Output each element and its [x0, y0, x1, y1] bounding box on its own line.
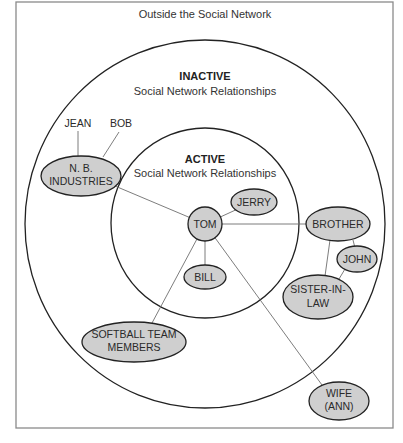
node-label-line: LAW — [307, 297, 329, 309]
node-label-line: (ANN) — [324, 400, 353, 412]
node-label-line: MEMBERS — [107, 341, 160, 353]
node-softball-team: SOFTBALL TEAM MEMBERS — [82, 322, 186, 362]
label-jean: JEAN — [65, 117, 92, 129]
node-brother: BROTHER — [306, 207, 370, 241]
inactive-zone-title: INACTIVE — [179, 70, 230, 82]
inactive-zone-subtitle: Social Network Relationships — [134, 85, 277, 97]
node-label-line: JOHN — [343, 253, 372, 265]
node-label-line: JERRY — [237, 196, 271, 208]
node-label-line: N. B. — [69, 162, 92, 174]
node-sister-in-law: SISTER-IN- LAW — [283, 275, 353, 319]
node-label-line: WIFE — [326, 387, 352, 399]
node-jerry: JERRY — [231, 189, 277, 215]
node-tom: TOM — [188, 207, 222, 241]
node-wife-ann: WIFE (ANN) — [309, 382, 369, 420]
social-network-diagram: Outside the Social Network INACTIVE Soci… — [0, 0, 403, 443]
node-john: JOHN — [337, 246, 377, 272]
active-zone-title: ACTIVE — [185, 153, 225, 165]
node-label-line: BILL — [194, 271, 216, 283]
active-zone-subtitle: Social Network Relationships — [134, 167, 277, 179]
label-bob: BOB — [110, 117, 132, 129]
diagram-canvas: Outside the Social Network INACTIVE Soci… — [0, 0, 403, 443]
node-label-line: SISTER-IN- — [290, 283, 346, 295]
node-nb-industries: N. B. INDUSTRIES — [41, 156, 121, 196]
node-label-line: INDUSTRIES — [49, 175, 113, 187]
node-label-line: BROTHER — [312, 218, 364, 230]
node-bill: BILL — [184, 265, 226, 289]
outside-region-title: Outside the Social Network — [139, 8, 272, 20]
node-label-line: SOFTBALL TEAM — [91, 328, 176, 340]
node-label-line: TOM — [193, 218, 216, 230]
